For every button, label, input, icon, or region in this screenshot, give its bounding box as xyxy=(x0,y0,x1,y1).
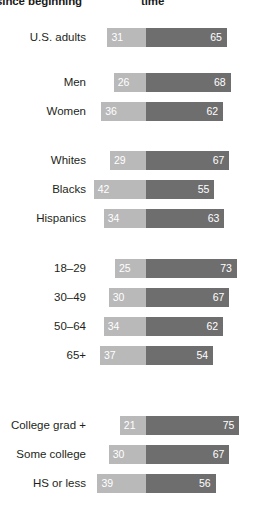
row-label: Blacks xyxy=(0,178,86,200)
chart-row: U.S. adults3165 xyxy=(0,26,255,48)
bar-value-left: 25 xyxy=(119,259,131,278)
bar-segment-right: 73 xyxy=(146,259,237,278)
row-label: Women xyxy=(0,100,86,122)
bar-track: 2573 xyxy=(115,259,237,278)
chart-row: Some college3067 xyxy=(0,443,255,465)
row-label: 18–29 xyxy=(0,257,86,279)
bar-value-left: 21 xyxy=(124,416,136,435)
bar-value-right: 67 xyxy=(213,288,225,307)
bar-segment-left: 30 xyxy=(109,288,146,307)
bar-value-left: 36 xyxy=(105,102,117,121)
bar-value-left: 29 xyxy=(114,151,126,170)
bar-value-left: 42 xyxy=(98,180,110,199)
bar-segment-left: 29 xyxy=(110,151,146,170)
row-label: Men xyxy=(0,71,86,93)
row-label: Whites xyxy=(0,149,86,171)
bar-value-right: 65 xyxy=(210,28,222,47)
bar-segment-left: 36 xyxy=(101,102,146,121)
chart-rows: U.S. adults3165Men2668Women3662Whites296… xyxy=(0,0,255,507)
bar-value-right: 63 xyxy=(208,209,220,228)
chart-row: College grad +2175 xyxy=(0,414,255,436)
row-label: U.S. adults xyxy=(0,26,86,48)
bar-track: 3754 xyxy=(100,346,213,365)
bar-value-left: 30 xyxy=(113,288,125,307)
chart-row: Blacks4255 xyxy=(0,178,255,200)
bar-value-right: 73 xyxy=(220,259,232,278)
bar-value-left: 34 xyxy=(108,209,120,228)
bar-value-left: 39 xyxy=(101,474,113,493)
bar-segment-right: 65 xyxy=(146,28,227,47)
bar-value-left: 37 xyxy=(104,346,116,365)
bar-segment-left: 25 xyxy=(115,259,146,278)
bar-segment-left: 37 xyxy=(100,346,146,365)
bar-value-right: 62 xyxy=(206,102,218,121)
chart-row: 30–493067 xyxy=(0,286,255,308)
bar-segment-left: 34 xyxy=(104,209,146,228)
bar-segment-right: 62 xyxy=(146,317,223,336)
row-label: 30–49 xyxy=(0,286,86,308)
row-label: HS or less xyxy=(0,472,86,494)
bar-track: 2668 xyxy=(114,73,231,92)
bar-value-right: 75 xyxy=(223,416,235,435)
bar-value-right: 68 xyxy=(214,73,226,92)
bar-segment-right: 75 xyxy=(146,416,239,435)
chart-row: Hispanics3463 xyxy=(0,207,255,229)
bar-segment-left: 39 xyxy=(97,474,146,493)
bar-segment-right: 63 xyxy=(146,209,224,228)
bar-track: 3956 xyxy=(97,474,215,493)
bar-value-right: 54 xyxy=(197,346,209,365)
bar-segment-right: 56 xyxy=(146,474,216,493)
bar-track: 3462 xyxy=(104,317,224,336)
bar-track: 3067 xyxy=(109,445,230,464)
bar-segment-left: 34 xyxy=(104,317,146,336)
bar-segment-left: 31 xyxy=(107,28,146,47)
row-label: Hispanics xyxy=(0,207,86,229)
bar-segment-right: 54 xyxy=(146,346,213,365)
chart-row: Women3662 xyxy=(0,100,255,122)
bar-value-right: 67 xyxy=(213,445,225,464)
chart-row: 18–292573 xyxy=(0,257,255,279)
bar-value-right: 55 xyxy=(198,180,210,199)
chart-container: since beginning time U.S. adults3165Men2… xyxy=(0,0,255,507)
bar-value-left: 30 xyxy=(113,445,125,464)
bar-segment-right: 67 xyxy=(146,288,229,307)
bar-track: 3165 xyxy=(107,28,227,47)
bar-segment-right: 67 xyxy=(146,445,229,464)
bar-track: 2175 xyxy=(120,416,240,435)
bar-segment-right: 55 xyxy=(146,180,214,199)
bar-value-left: 34 xyxy=(108,317,120,336)
bar-segment-right: 68 xyxy=(146,73,231,92)
bar-track: 3463 xyxy=(104,209,225,228)
bar-segment-left: 26 xyxy=(114,73,146,92)
bar-track: 3662 xyxy=(101,102,223,121)
bar-value-right: 56 xyxy=(199,474,211,493)
bar-segment-left: 42 xyxy=(94,180,146,199)
chart-row: 50–643462 xyxy=(0,315,255,337)
chart-row: Men2668 xyxy=(0,71,255,93)
row-label: Some college xyxy=(0,443,86,465)
bar-track: 4255 xyxy=(94,180,215,199)
bar-segment-left: 30 xyxy=(109,445,146,464)
bar-value-left: 31 xyxy=(111,28,123,47)
bar-segment-right: 62 xyxy=(146,102,223,121)
bar-value-right: 67 xyxy=(213,151,225,170)
bar-track: 3067 xyxy=(109,288,230,307)
chart-row: 65+3754 xyxy=(0,344,255,366)
bar-value-left: 26 xyxy=(118,73,130,92)
row-label: College grad + xyxy=(0,414,86,436)
bar-segment-right: 67 xyxy=(146,151,229,170)
bar-track: 2967 xyxy=(110,151,230,170)
row-label: 65+ xyxy=(0,344,86,366)
chart-row: HS or less3956 xyxy=(0,472,255,494)
row-label: 50–64 xyxy=(0,315,86,337)
bar-segment-left: 21 xyxy=(120,416,146,435)
bar-value-right: 62 xyxy=(206,317,218,336)
chart-row: Whites2967 xyxy=(0,149,255,171)
